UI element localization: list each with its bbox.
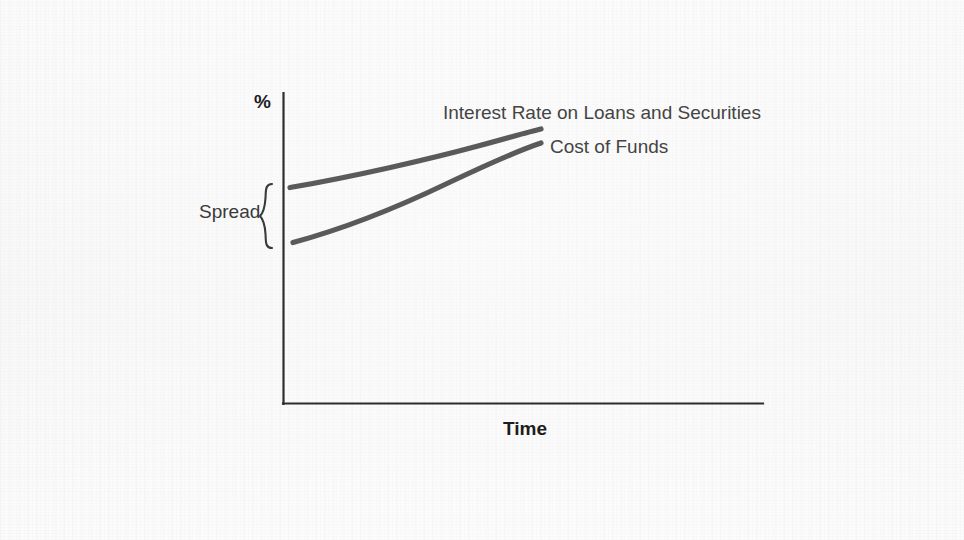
cost-of-funds-series-label: Cost of Funds [550, 137, 668, 156]
spread-annotation-label: Spread [199, 202, 260, 221]
series-line-cost-of-funds [293, 143, 541, 243]
figure-canvas: % Time Spread Interest Rate on Loans and… [0, 0, 964, 540]
y-axis-label: % [254, 92, 271, 111]
x-axis-label: Time [503, 419, 547, 438]
spread-brace-icon [260, 184, 272, 248]
spread-line-chart [0, 0, 964, 540]
interest-rate-series-label: Interest Rate on Loans and Securities [443, 103, 761, 122]
